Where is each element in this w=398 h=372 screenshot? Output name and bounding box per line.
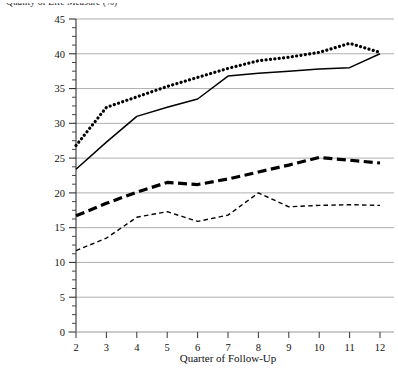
x-tick-label: 11 bbox=[345, 342, 355, 353]
x-tick-label: 3 bbox=[104, 342, 109, 353]
y-tick-labels: 051015202530354045 bbox=[55, 14, 66, 338]
x-tick-label: 2 bbox=[73, 342, 78, 353]
y-tick-label: 30 bbox=[55, 118, 66, 129]
y-tick-label: 35 bbox=[55, 83, 66, 94]
line-chart-plot: 051015202530354045 23456789101112 Quarte… bbox=[0, 0, 398, 372]
y-tick-label: 0 bbox=[60, 327, 65, 338]
data-series-group bbox=[76, 43, 380, 250]
series-dotted-top bbox=[76, 43, 380, 145]
x-tick-label: 12 bbox=[375, 342, 386, 353]
y-tick-label: 5 bbox=[60, 292, 65, 303]
y-tick-label: 45 bbox=[55, 14, 66, 25]
y-tick-label: 10 bbox=[55, 257, 66, 268]
x-axis-title: Quarter of Follow-Up bbox=[180, 352, 277, 364]
y-tick-label: 15 bbox=[55, 222, 66, 233]
grid-lines bbox=[76, 19, 394, 297]
y-tick-label: 20 bbox=[55, 188, 66, 199]
series-solid bbox=[76, 54, 380, 169]
y-tick-label: 25 bbox=[55, 153, 66, 164]
x-tick-label: 4 bbox=[134, 342, 140, 353]
chart-container: Quality of Life Measure (%) 051015202530… bbox=[0, 0, 398, 372]
y-axis bbox=[69, 19, 76, 332]
x-tick-label: 10 bbox=[314, 342, 325, 353]
x-axis bbox=[68, 332, 394, 338]
series-dashed-thin bbox=[76, 193, 380, 251]
series-dashed-thick bbox=[76, 157, 380, 215]
x-tick-label: 5 bbox=[165, 342, 170, 353]
y-tick-label: 40 bbox=[55, 49, 66, 60]
x-tick-label: 9 bbox=[286, 342, 291, 353]
